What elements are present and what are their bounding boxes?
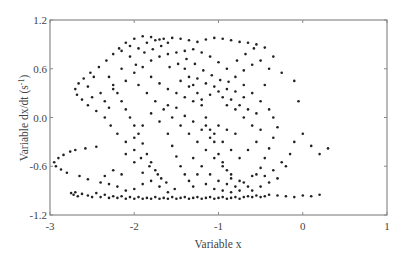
data-point [230,98,233,101]
data-point [125,108,128,111]
y-tick-label: -1.2 [30,209,47,221]
data-point [179,80,182,83]
data-point [55,165,58,168]
y-tick-label: -0.6 [30,160,48,172]
data-point [268,108,271,111]
data-point [205,149,208,152]
data-point [253,47,256,50]
data-point [192,120,195,123]
data-point [120,195,123,198]
data-point [276,126,279,129]
data-point [243,116,246,119]
data-point [112,88,115,91]
data-point [91,196,94,199]
data-point [167,104,170,107]
data-point [87,104,90,107]
data-point [150,112,153,115]
x-tick-label: 0 [300,220,306,232]
data-point [213,85,216,88]
data-point [184,173,187,176]
data-point [196,41,199,44]
data-point [219,79,222,82]
data-point [234,133,237,136]
data-point [81,98,84,101]
data-point [217,197,220,200]
data-point [81,193,84,196]
data-point [238,180,241,183]
data-point [200,98,203,101]
data-point [105,59,108,62]
data-point [162,37,165,40]
data-point [272,116,275,119]
data-point [109,124,112,127]
data-point [272,169,275,172]
data-point [205,183,208,186]
data-point [221,161,224,164]
data-point [175,107,178,110]
data-point [112,84,115,87]
data-point [238,198,241,201]
data-point [213,37,216,40]
data-point [209,196,212,199]
data-point [108,183,111,186]
data-point [175,51,178,54]
data-point [221,37,224,40]
data-point [217,153,220,156]
data-point [243,69,246,72]
data-point [226,104,229,107]
data-point [140,157,143,160]
data-point [129,45,132,48]
data-point [158,185,161,188]
data-point [137,196,140,199]
data-point [129,55,132,58]
data-point [137,47,140,50]
data-point [209,55,212,58]
data-point [192,48,195,51]
data-point [133,188,136,191]
data-point [168,66,171,69]
data-point [234,90,237,93]
data-point [188,39,191,42]
data-point [196,196,199,199]
data-point [247,149,250,152]
data-point [230,149,233,152]
data-point [264,46,267,49]
data-point [74,88,77,91]
data-point [120,68,123,71]
data-point [264,195,267,198]
data-point [141,35,144,38]
data-point [234,76,237,79]
data-point [200,51,203,54]
data-point [77,82,80,85]
y-tick-label: 0.0 [33,112,47,124]
data-point [221,165,224,168]
data-point [171,116,174,119]
data-point [167,53,170,56]
data-point [158,198,161,201]
data-point [99,181,102,184]
data-point [238,104,241,107]
data-point [137,84,140,87]
data-point [236,59,239,62]
data-point [175,155,178,158]
x-tick-label: -3 [45,220,55,232]
data-point [221,196,224,199]
data-point [221,141,224,144]
y-axis-label-superscript: -1 [17,79,26,86]
data-point [196,77,199,80]
data-point [205,116,208,119]
data-point [162,108,165,111]
data-point [185,58,188,61]
data-point [160,177,163,180]
data-point [78,175,81,178]
data-point [120,173,123,176]
data-point [99,92,102,95]
data-point [227,81,230,84]
data-point [259,100,262,103]
data-point [310,145,313,148]
data-point [243,84,246,87]
data-point [285,165,288,168]
data-point [217,124,220,127]
data-point [112,169,115,172]
data-point [234,108,237,111]
